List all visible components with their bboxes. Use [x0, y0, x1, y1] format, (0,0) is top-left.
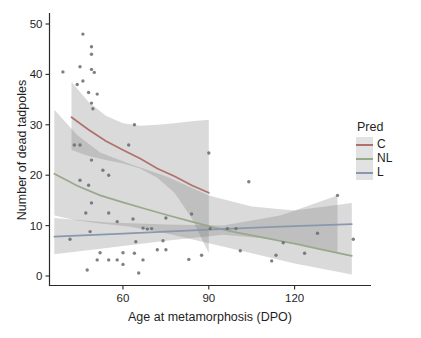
data-point: [141, 258, 144, 261]
data-point: [207, 151, 210, 154]
data-point: [107, 174, 110, 177]
x-tick-label: 90: [202, 292, 215, 304]
data-point: [107, 211, 110, 214]
x-axis-title: Age at metamorphosis (DPO): [50, 310, 370, 324]
y-tick-label: 10: [30, 220, 43, 232]
data-point: [234, 227, 237, 230]
data-point: [352, 238, 355, 241]
y-tick-label: 20: [30, 169, 43, 181]
data-point: [121, 251, 124, 254]
data-point: [90, 101, 93, 104]
data-point: [336, 194, 339, 197]
legend-item-C: C: [356, 137, 392, 152]
legend-line-NL: [356, 158, 373, 160]
data-point: [81, 79, 84, 82]
x-tick-label: 120: [285, 292, 304, 304]
legend-key-L: [356, 165, 373, 180]
data-point: [93, 71, 96, 74]
data-point: [90, 68, 93, 71]
x-tick-label: 60: [117, 292, 130, 304]
legend: Pred CNLL: [356, 120, 392, 179]
y-tick-label: 40: [30, 68, 43, 80]
data-point: [88, 230, 91, 233]
data-point: [96, 258, 99, 261]
data-point: [127, 143, 130, 146]
y-tick-label: 30: [30, 119, 43, 131]
data-point: [84, 211, 87, 214]
data-point: [131, 217, 134, 220]
data-point: [270, 259, 273, 262]
legend-label-NL: NL: [377, 151, 392, 166]
data-point: [101, 169, 104, 172]
legend-item-NL: NL: [356, 151, 392, 166]
data-point: [133, 252, 136, 255]
data-point: [156, 248, 159, 251]
data-point: [303, 252, 306, 255]
data-point: [90, 53, 93, 56]
data-point: [141, 226, 144, 229]
data-point: [209, 227, 212, 230]
data-point: [239, 249, 242, 252]
data-point: [91, 107, 94, 110]
legend-line-C: [356, 144, 373, 146]
legend-item-L: L: [356, 165, 392, 180]
data-point: [76, 83, 79, 86]
data-point: [164, 216, 167, 219]
y-tick-label: 50: [30, 18, 43, 30]
data-point: [137, 271, 140, 274]
data-point: [164, 248, 167, 251]
data-point: [107, 258, 110, 261]
data-point: [98, 251, 101, 254]
data-point: [73, 143, 76, 146]
data-point: [78, 65, 81, 68]
data-point: [90, 201, 93, 204]
data-point: [61, 70, 64, 73]
data-point: [161, 239, 164, 242]
data-point: [121, 263, 124, 266]
data-point: [247, 180, 250, 183]
data-point: [316, 232, 319, 235]
data-point: [78, 143, 81, 146]
y-axis-title: Number of dead tadpoles: [15, 70, 29, 230]
data-point: [150, 227, 153, 230]
data-point: [200, 254, 203, 257]
data-point: [116, 220, 119, 223]
data-point: [87, 91, 90, 94]
y-tick-label: 0: [36, 270, 42, 282]
data-point: [86, 268, 89, 271]
data-point: [68, 238, 71, 241]
data-point: [78, 179, 81, 182]
legend-line-L: [356, 172, 373, 174]
data-point: [90, 158, 93, 161]
legend-title: Pred: [356, 120, 392, 134]
legend-items: CNLL: [356, 137, 392, 180]
data-point: [274, 254, 277, 257]
legend-key-C: [356, 137, 373, 152]
data-point: [146, 227, 149, 230]
data-point: [187, 258, 190, 261]
data-point: [134, 240, 137, 243]
data-point: [116, 258, 119, 261]
data-point: [226, 227, 229, 230]
legend-label-C: C: [377, 137, 386, 152]
data-point: [133, 123, 136, 126]
data-point: [81, 32, 84, 35]
data-point: [282, 241, 285, 244]
data-point: [190, 212, 193, 215]
data-point: [90, 45, 93, 48]
data-point: [87, 184, 90, 187]
data-point: [96, 92, 99, 95]
legend-label-L: L: [377, 165, 384, 180]
legend-key-NL: [356, 151, 373, 166]
plot-figure: 010203040506090120 Number of dead tadpol…: [0, 0, 421, 338]
